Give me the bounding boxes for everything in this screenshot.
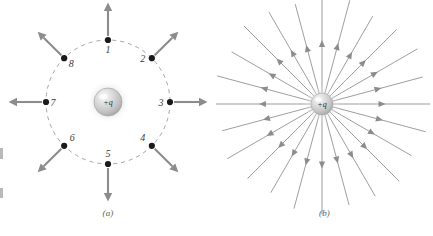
- field-line-arrowhead-8: [305, 45, 311, 53]
- field-line-arrowhead-23: [367, 128, 375, 134]
- field-line-arrowhead-9: [291, 50, 297, 58]
- measurement-point-label-5: 5: [106, 148, 111, 159]
- charge-label: +q: [317, 100, 326, 109]
- field-vector-shaft-4: [155, 149, 173, 167]
- field-line-arrowhead-14: [263, 115, 271, 121]
- field-line-arrowhead-20: [333, 156, 339, 164]
- field-line-arrowhead-13: [259, 101, 266, 107]
- caption-panel-a: (a): [0, 208, 216, 218]
- field-line-arrowhead-12: [261, 86, 269, 92]
- panel-b-drawing: +q: [216, 0, 433, 236]
- panel-a-drawing: +q 12345678: [0, 0, 216, 236]
- field-line-arrowhead-18: [304, 158, 310, 166]
- measurement-point-dot-5: [105, 161, 111, 167]
- field-line-arrowhead-21: [347, 151, 353, 159]
- field-line-arrowhead-17: [292, 149, 298, 157]
- caption-panel-b: (b): [216, 208, 433, 218]
- field-vector-shaft-8: [44, 38, 62, 56]
- field-vector-shaft-2: [155, 38, 173, 56]
- measurement-point-label-1: 1: [106, 44, 111, 55]
- field-line-arrowhead-5: [346, 52, 352, 60]
- panel-b-field-lines: +q (b): [216, 0, 433, 236]
- measurement-point-label-3: 3: [158, 97, 164, 108]
- measurement-point-label-2: 2: [140, 53, 145, 64]
- measurement-point-dot-6: [61, 143, 67, 149]
- panel-a-field-vectors: +q 12345678 (a): [0, 0, 216, 236]
- field-line-arrowhead-24: [375, 116, 383, 122]
- field-vector-arrowhead-3: [199, 98, 208, 106]
- measurement-point-dot-1: [105, 37, 111, 43]
- measurement-point-label-8: 8: [69, 58, 74, 69]
- point-charge-sphere: +q: [86, 80, 129, 123]
- field-line-arrowhead-19: [319, 161, 325, 168]
- field-line-arrowhead-11: [269, 73, 277, 79]
- measurement-point-dot-3: [167, 99, 173, 105]
- field-line-arrowhead-15: [267, 130, 275, 136]
- measurement-point-dot-7: [43, 99, 49, 105]
- point-charge-sphere: +q: [303, 85, 340, 122]
- field-vector-arrowhead-1: [104, 3, 112, 12]
- measurement-point-dot-2: [149, 55, 155, 61]
- field-line-arrowhead-3: [370, 72, 378, 78]
- field-vector-shaft-6: [44, 149, 62, 167]
- measurement-point-label-4: 4: [140, 132, 145, 143]
- field-vector-arrowhead-7: [9, 98, 18, 106]
- field-line-arrowhead-2: [374, 87, 382, 93]
- field-line-arrowhead-6: [334, 43, 340, 51]
- measurement-point-label-7: 7: [51, 97, 57, 108]
- field-line-arrowhead-1: [379, 101, 386, 107]
- charge-label: +q: [103, 98, 112, 107]
- measurement-point-dot-8: [61, 55, 67, 61]
- measurement-point-dot-4: [149, 143, 155, 149]
- field-vector-arrowhead-5: [104, 193, 112, 202]
- figure-root: +q 12345678 (a) +q (b): [0, 0, 433, 236]
- field-line-arrowhead-7: [319, 40, 325, 47]
- measurement-point-label-6: 6: [70, 132, 75, 143]
